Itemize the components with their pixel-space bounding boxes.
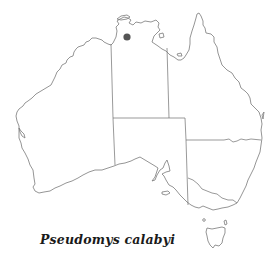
wa-nt-sa-border	[111, 44, 115, 165]
kangaroo-island	[162, 191, 170, 195]
sa-qld-border	[185, 118, 186, 140]
fraser-island	[262, 112, 264, 119]
species-label: Pseudomys calabyi	[40, 232, 175, 247]
qld-nsw-border	[186, 139, 261, 142]
king-island	[203, 219, 206, 222]
australia-map	[0, 0, 278, 267]
flinders-island	[224, 220, 227, 225]
shark-bay	[19, 128, 25, 138]
nsw-vic-border	[188, 178, 237, 203]
tasmania	[206, 227, 225, 248]
mainland-coastline	[16, 13, 262, 210]
nt-qld-border	[167, 48, 169, 118]
occurrence-point	[123, 33, 130, 40]
mornington-island	[177, 53, 182, 56]
sa-nsw-vic-border	[186, 140, 188, 205]
groote-eylandt	[159, 33, 164, 38]
